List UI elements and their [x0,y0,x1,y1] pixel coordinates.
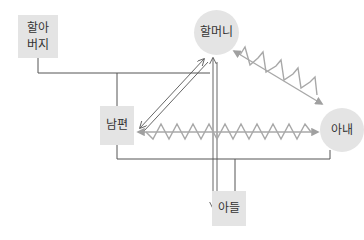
grandfather-label-line1: 할아 [27,20,49,37]
wife-node: 아내 [320,108,364,152]
grandfather-node: 할아 버지 [18,15,58,58]
grandparents-marriage-line [38,58,210,106]
husband-node: 남편 [100,106,134,145]
conflict-relation-husband-wife [138,124,318,139]
grandmother-label: 할머니 [200,24,233,41]
parents-marriage-line [117,145,330,191]
grandfather-label-line2: 버지 [27,37,49,54]
wife-label: 아내 [331,122,353,139]
son-label: 아들 [218,200,240,217]
husband-label: 남편 [106,117,128,134]
grandmother-node: 할머니 [194,10,239,55]
conflict-relation-grandmother-wife [234,47,322,104]
genogram-diagram: 할아 버지 할머니 남편 아내 아들 [0,0,364,240]
close-relation-husband-grandmother [140,59,208,131]
son-node: 아들 [212,191,246,226]
